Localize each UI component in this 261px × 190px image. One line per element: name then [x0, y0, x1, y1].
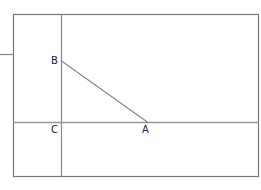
- point-label-a: A: [142, 124, 149, 135]
- point-label-b: B: [51, 55, 58, 66]
- segment-ba: [62, 61, 149, 123]
- geometry-diagram: B C A: [0, 0, 261, 190]
- outer-frame: [14, 15, 259, 177]
- point-label-c: C: [51, 124, 58, 135]
